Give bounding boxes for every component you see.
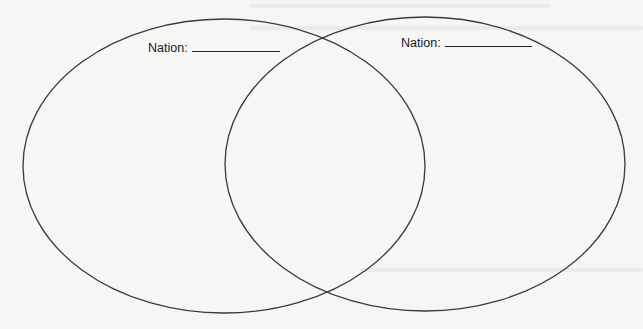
left-nation-label: Nation: (148, 41, 280, 55)
left-nation-blank[interactable] (192, 50, 280, 52)
venn-diagram (0, 0, 643, 329)
left-nation-label-text: Nation: (148, 41, 188, 55)
right-nation-label-text: Nation: (401, 36, 441, 50)
right-nation-blank[interactable] (445, 45, 532, 47)
left-circle (23, 19, 425, 313)
right-nation-label: Nation: (401, 36, 532, 50)
